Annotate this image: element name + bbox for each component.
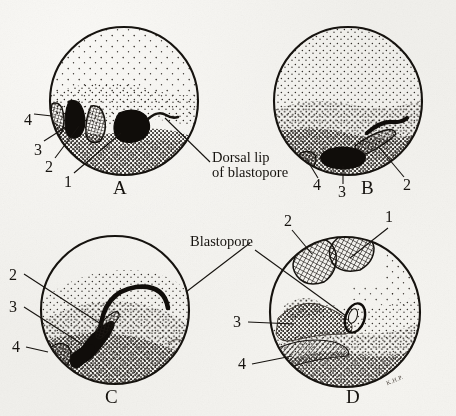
panel-B-label-4: 4 [313, 177, 321, 194]
panel-D-label-1: 1 [385, 209, 393, 226]
panel-B-label-2: 2 [403, 177, 411, 194]
panel-letter-C: C [105, 387, 118, 407]
panel-C-label-3: 3 [9, 299, 17, 316]
callout-dorsal-lip-line-1: Dorsal lip [212, 150, 288, 165]
panel-D-drawing [248, 228, 420, 392]
callout-blastopore: Blastopore [190, 234, 253, 249]
panel-C-drawing [24, 236, 250, 392]
panel-D-label-3: 3 [233, 314, 241, 331]
figure-root: A B C D 4 3 2 1 4 3 2 2 3 4 2 1 3 4 Dors… [0, 0, 456, 416]
panel-A-label-3: 3 [34, 142, 42, 159]
panel-A-label-2: 2 [45, 159, 53, 176]
callout-dorsal-lip-of-blastopore: Dorsal lip of blastopore [212, 150, 288, 180]
panel-A-drawing [34, 27, 210, 182]
panel-C-label-2: 2 [9, 267, 17, 284]
panel-D-label-2: 2 [284, 213, 292, 230]
panel-letter-B: B [361, 178, 374, 198]
panel-A-label-1: 1 [64, 174, 72, 191]
panel-A-label-4: 4 [24, 112, 32, 129]
callout-dorsal-lip-line-2: of blastopore [212, 165, 288, 180]
panel-B-label-3: 3 [338, 184, 346, 201]
panel-letter-A: A [113, 178, 127, 198]
callout-blastopore-line-1: Blastopore [190, 234, 253, 249]
panel-B-drawing [274, 27, 422, 184]
panel-D-label-4: 4 [238, 356, 246, 373]
panel-letter-D: D [346, 387, 360, 407]
panel-C-label-4: 4 [12, 339, 20, 356]
